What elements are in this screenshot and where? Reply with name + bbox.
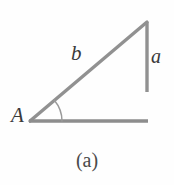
figure-container: A b a (a) [0,0,174,185]
side-label-b: b [71,43,82,64]
side-label-a: a [151,46,161,66]
figure-caption: (a) [0,150,174,170]
vertex-label-A: A [11,105,24,126]
